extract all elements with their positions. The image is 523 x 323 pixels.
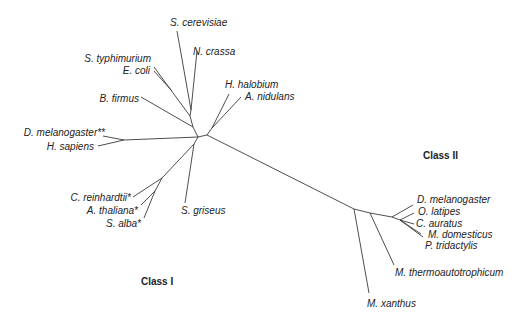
- branch-d-melanogaster-1: [103, 136, 124, 140]
- label-e-coli: E. coli: [123, 65, 151, 76]
- branch-upper-stem: [193, 127, 198, 137]
- branch-a-thaliana: [141, 191, 155, 205]
- branch-lower-stem: [194, 137, 198, 144]
- branch-c-reinhardtii: [133, 178, 162, 197]
- label-m-xanthus: M. xanthus: [367, 298, 416, 309]
- class-i-label: Class I: [141, 276, 173, 287]
- central-node-branch: [198, 135, 207, 137]
- branch-m-xanthus: [354, 209, 369, 293]
- label-a-thaliana: A. thaliana*: [86, 205, 139, 216]
- label-a-nidulans: A. nidulans: [244, 91, 294, 102]
- label-c-auratus: C. auratus: [416, 218, 462, 229]
- branch-b-firmus: [141, 97, 193, 127]
- branch-archaea-stem: [207, 128, 212, 135]
- label-b-firmus: B. firmus: [100, 93, 139, 104]
- label-d-melanogaster-1: D. melanogaster**: [24, 127, 106, 138]
- label-p-tridactylis: P. tridactylis: [425, 240, 478, 251]
- branch-a-nidulans: [212, 97, 241, 128]
- branch-h-halobium: [212, 94, 229, 128]
- label-d-melanogaster-2: D. melanogaster: [417, 194, 491, 205]
- label-m-thermoautotrophicum: M. thermoautotrophicum: [395, 267, 503, 278]
- label-c-reinhardtii: C. reinhardtii*: [70, 192, 132, 203]
- phylogenetic-tree: S. cerevisiae N. crassa S. typhimurium E…: [0, 0, 523, 323]
- branch-vertebrate-node: [392, 217, 400, 220]
- long-internal-branch: [207, 135, 392, 217]
- branch-m-thermoautotrophicum: [370, 213, 394, 265]
- branch-s-cerevisiae: [177, 31, 191, 110]
- branch-s-alba: [144, 191, 155, 218]
- label-s-cerevisiae: S. cerevisiae: [170, 17, 228, 28]
- branch-animal-stem: [124, 137, 198, 140]
- label-h-sapiens: H. sapiens: [47, 141, 94, 152]
- label-m-domesticus: M. domesticus: [428, 229, 492, 240]
- branch-n-crassa: [191, 51, 197, 110]
- class-ii-label: Class II: [423, 150, 458, 161]
- label-h-halobium: H. halobium: [225, 79, 278, 90]
- label-s-alba: S. alba*: [106, 218, 142, 229]
- label-s-griseus: S. griseus: [181, 205, 225, 216]
- branch-s-griseus: [185, 144, 194, 203]
- label-o-latipes: O. latipes: [418, 206, 460, 217]
- branch-o-latipes: [400, 213, 414, 220]
- branch-e-coli: [154, 71, 172, 91]
- branch-h-sapiens: [98, 140, 124, 146]
- label-s-typhimurium: S. typhimurium: [84, 53, 151, 64]
- branch-fungi-stem: [190, 110, 191, 116]
- label-n-crassa: N. crassa: [193, 46, 236, 57]
